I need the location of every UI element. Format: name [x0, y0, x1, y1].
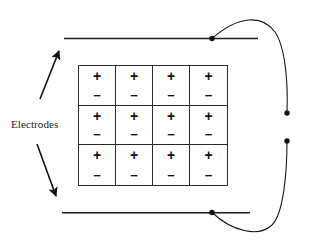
charge-cell: + −: [153, 145, 190, 185]
positive-charge-symbol: +: [93, 111, 101, 122]
negative-charge-symbol: −: [167, 131, 175, 138]
positive-charge-symbol: +: [130, 71, 138, 82]
charge-cell: + −: [153, 106, 190, 146]
lower-terminal-dot: [284, 138, 289, 143]
positive-charge-symbol: +: [204, 71, 212, 82]
charge-cell: + −: [190, 106, 227, 146]
charge-cell: + −: [116, 106, 153, 146]
charge-cell: + −: [79, 106, 116, 146]
upper-terminal-dot: [284, 110, 289, 115]
negative-charge-symbol: −: [205, 172, 213, 179]
charge-cell: + −: [116, 145, 153, 185]
negative-charge-symbol: −: [205, 131, 213, 138]
positive-charge-symbol: +: [204, 111, 212, 122]
positive-charge-symbol: +: [167, 150, 175, 161]
negative-charge-symbol: −: [93, 172, 101, 179]
charge-cell: + −: [79, 66, 116, 106]
charge-cell: + −: [190, 145, 227, 185]
charge-cell: + −: [190, 66, 227, 106]
negative-charge-symbol: −: [93, 92, 101, 99]
negative-charge-symbol: −: [205, 92, 213, 99]
negative-charge-symbol: −: [130, 131, 138, 138]
positive-charge-symbol: +: [167, 71, 175, 82]
positive-charge-symbol: +: [93, 71, 101, 82]
charge-cell: + −: [116, 66, 153, 106]
charge-cell: + −: [79, 145, 116, 185]
diagram-canvas: Electrodes + − + − + − + − + − + − + −: [0, 0, 313, 244]
negative-charge-symbol: −: [93, 131, 101, 138]
positive-charge-symbol: +: [204, 150, 212, 161]
lower-electrode-arrow: [37, 144, 56, 196]
bottom-junction-dot: [209, 210, 214, 215]
positive-charge-symbol: +: [93, 150, 101, 161]
top-junction-dot: [209, 36, 214, 41]
positive-charge-symbol: +: [130, 111, 138, 122]
charge-cell: + −: [153, 66, 190, 106]
negative-charge-symbol: −: [130, 172, 138, 179]
upper-electrode-arrow: [40, 51, 59, 99]
negative-charge-symbol: −: [130, 92, 138, 99]
negative-charge-symbol: −: [167, 92, 175, 99]
negative-charge-symbol: −: [167, 172, 175, 179]
charge-cell-array: + − + − + − + − + − + − + − + −: [78, 65, 228, 186]
electrodes-label: Electrodes: [11, 118, 58, 131]
positive-charge-symbol: +: [167, 111, 175, 122]
positive-charge-symbol: +: [130, 150, 138, 161]
